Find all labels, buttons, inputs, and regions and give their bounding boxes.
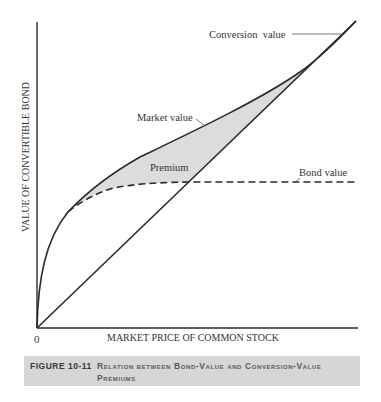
y-axis-label: VALUE OF CONVERTIBLE BOND [20, 82, 31, 232]
figure-title: Relation between Bond-Value and Conversi… [97, 360, 347, 384]
origin-label: 0 [34, 333, 40, 345]
figure-caption: FIGURE 10-11 Relation between Bond-Value… [24, 356, 360, 386]
x-axis-label: MARKET PRICE OF COMMON STOCK [107, 332, 280, 343]
conversion-value-label: Conversion value [209, 29, 286, 40]
market-value-leader [196, 119, 205, 126]
chart-figure: Conversion value Market value Premium Bo… [0, 0, 381, 402]
bond-value-label: Bond value [299, 167, 347, 178]
premium-label: Premium [150, 162, 189, 173]
figure-number: FIGURE 10-11 [30, 360, 92, 372]
market-value-label: Market value [137, 112, 193, 123]
